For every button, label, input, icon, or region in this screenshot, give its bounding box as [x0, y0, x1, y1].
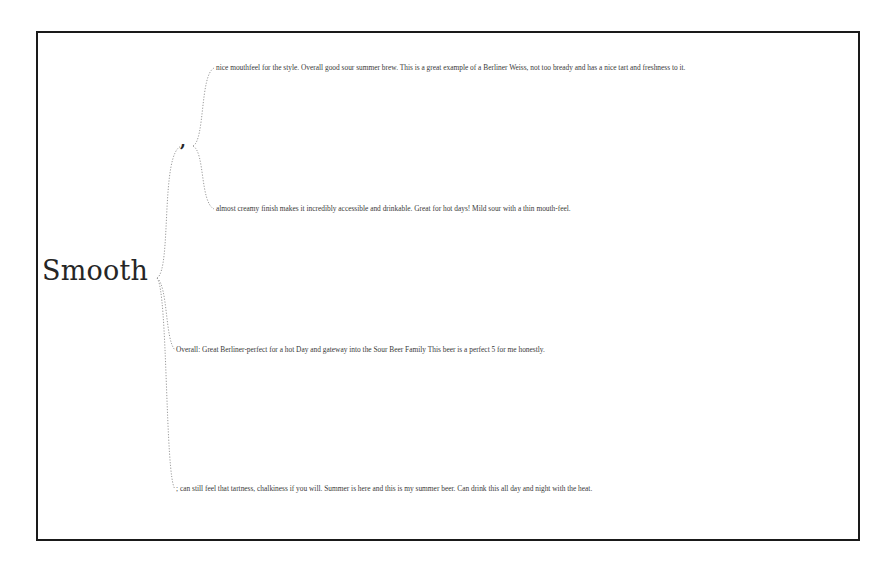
word-tree-leaf[interactable]: nice mouthfeel for the style. Overall go…: [216, 64, 685, 71]
word-tree-branch-comma[interactable]: ,: [180, 133, 186, 150]
link-comma-to-leaf-1: [193, 68, 214, 146]
word-tree-leaf[interactable]: ; can still feel that tartness, chalkine…: [176, 485, 592, 492]
word-tree-leaf[interactable]: almost creamy finish makes it incredibly…: [216, 205, 571, 212]
link-root-to-leaf-3: [157, 278, 175, 350]
link-root-to-leaf-4: [157, 278, 175, 489]
link-comma-to-leaf-2: [193, 146, 214, 209]
link-root-to-comma: [157, 146, 182, 278]
word-tree-leaf[interactable]: Overall: Great Berliner-perfect for a ho…: [176, 346, 545, 353]
word-tree-root[interactable]: Smooth: [42, 257, 148, 284]
